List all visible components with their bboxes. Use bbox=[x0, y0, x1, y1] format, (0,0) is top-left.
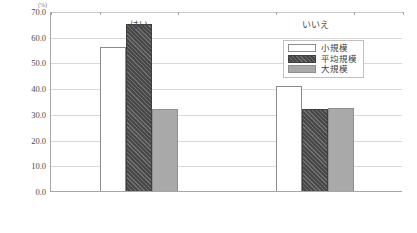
bar-average bbox=[126, 24, 152, 191]
x-axis-category-label: いいえ bbox=[302, 18, 329, 31]
bar-small bbox=[100, 47, 126, 191]
bar-large bbox=[152, 109, 178, 191]
legend-label-small: 小規模 bbox=[321, 44, 348, 53]
bar-chart: (%) 0.010.020.030.040.050.060.070.0 はいいい… bbox=[0, 0, 417, 233]
legend-item-small: 小規模 bbox=[288, 44, 357, 53]
bar-small bbox=[276, 86, 302, 191]
x-axis-tick bbox=[178, 12, 179, 15]
bar-average bbox=[302, 109, 328, 191]
plot-area: はいいいえ bbox=[50, 12, 402, 192]
legend-swatch-icon-small bbox=[288, 44, 316, 52]
y-axis-tick-label: 30.0 bbox=[6, 110, 46, 120]
y-axis-tick-label: 40.0 bbox=[6, 84, 46, 94]
plot-inner bbox=[51, 12, 402, 191]
y-axis-tick-label: 0.0 bbox=[6, 187, 46, 197]
x-axis-tick bbox=[403, 12, 404, 15]
bar-group bbox=[100, 12, 178, 191]
legend-label-large: 大規模 bbox=[321, 65, 348, 74]
y-axis-tick-label: 70.0 bbox=[6, 7, 46, 17]
x-axis-tick bbox=[354, 12, 355, 15]
legend-swatch-icon-large bbox=[288, 65, 316, 73]
legend-item-large: 大規模 bbox=[288, 65, 357, 74]
x-axis-tick bbox=[100, 12, 101, 15]
y-axis-tick-label: 60.0 bbox=[6, 33, 46, 43]
y-axis-tick-label: 20.0 bbox=[6, 136, 46, 146]
bar-large bbox=[328, 108, 354, 191]
legend-swatch-icon-average bbox=[288, 55, 316, 63]
legend: 小規模 平均規模 大規模 bbox=[283, 40, 364, 78]
legend-item-average: 平均規模 bbox=[288, 55, 357, 64]
y-axis-tick-label: 50.0 bbox=[6, 58, 46, 68]
x-axis-category-label: はい bbox=[130, 18, 148, 31]
x-axis-tick bbox=[51, 12, 52, 15]
legend-label-average: 平均規模 bbox=[321, 55, 357, 64]
y-axis-tick-label: 10.0 bbox=[6, 161, 46, 171]
bar-group bbox=[276, 12, 354, 191]
x-axis-tick bbox=[276, 12, 277, 15]
